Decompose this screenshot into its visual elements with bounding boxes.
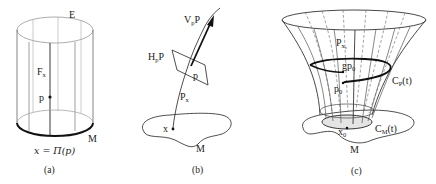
point-x0 (346, 127, 349, 130)
projection-equation: x = Π(p) (34, 145, 75, 156)
point-p (48, 95, 51, 98)
label-Px: Px (180, 91, 190, 103)
horizontal-plane (172, 50, 208, 85)
label-CP: CP(t) (392, 75, 412, 87)
base-manifold (142, 113, 231, 146)
label-p0: p0 (334, 83, 342, 95)
caption-c: (c) (351, 166, 362, 177)
panel-b: VpP HpP p Px x M (b) (142, 8, 231, 176)
label-gp0: gp0 (342, 60, 355, 72)
label-VpP: VpP (184, 14, 200, 26)
label-CM: CM(t) (375, 123, 397, 135)
caption-b: (b) (192, 165, 203, 176)
label-Fx: Fx (37, 66, 47, 78)
funnel-right-side (372, 20, 426, 115)
label-x: x (163, 123, 168, 134)
base-manifold-curve (17, 123, 93, 136)
label-M: M (350, 144, 359, 155)
cylinder-top (17, 17, 93, 43)
label-p: p (39, 92, 44, 103)
label-HpP: HpP (148, 51, 164, 63)
point-gp0 (342, 71, 344, 73)
panel-c: Px₀ gp0 p0 CP(t) x0 CM(t) M (c) (282, 10, 426, 177)
funnel-top-rim (282, 10, 426, 30)
panel-a: E Fx p M x = Π(p) (a) (17, 9, 97, 176)
fiber-bundle-figure: E Fx p M x = Π(p) (a) VpP HpP p Px x M (… (0, 0, 436, 184)
point-x (172, 128, 175, 131)
base-back (17, 110, 93, 123)
label-M: M (196, 143, 205, 154)
label-p: p (193, 70, 198, 81)
label-M: M (88, 133, 97, 144)
label-E: E (69, 9, 75, 20)
fiber-Px0 (353, 30, 355, 124)
vertical-vector (191, 22, 211, 66)
label-Px0: Px₀ (336, 37, 347, 49)
caption-a: (a) (44, 165, 55, 176)
point-p0 (342, 82, 344, 84)
